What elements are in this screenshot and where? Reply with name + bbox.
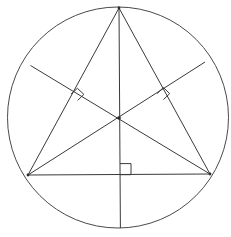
- right-angle-mark-bottom: [120, 164, 131, 175]
- point-orthocenter: [117, 116, 121, 120]
- altitude-from-bottom-left: [28, 62, 205, 175]
- triangle-side-right: [119, 8, 210, 174]
- point-bottom-left: [27, 174, 30, 177]
- point-apex: [118, 7, 121, 10]
- geometry-figure-root: [0, 0, 231, 237]
- triangle-side-bottom: [28, 174, 210, 175]
- geometry-diagram: [0, 0, 231, 237]
- point-bottom-right: [209, 173, 212, 176]
